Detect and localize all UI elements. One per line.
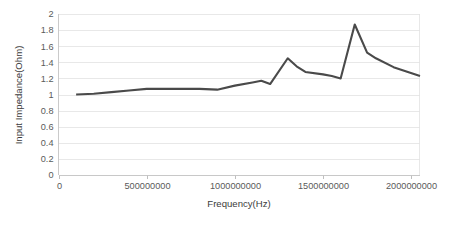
x-axis-tick-label: 1500000000 <box>298 181 349 191</box>
x-axis-tick-label: 500000000 <box>125 181 171 191</box>
x-axis-tick-label: 0 <box>57 181 62 191</box>
y-axis-tick-label: 0.2 <box>41 154 54 164</box>
y-axis-title: Input Impedance(Ohm) <box>13 46 24 145</box>
x-axis-title: Frequency(Hz) <box>207 198 270 209</box>
y-axis-tick-label: 0.6 <box>41 122 54 132</box>
y-axis-tick-label: 1.4 <box>41 58 54 68</box>
x-axis-tick-label: 2000000000 <box>386 181 437 191</box>
y-axis-tick-label: 0 <box>48 170 53 180</box>
chart-background <box>0 0 454 227</box>
chart-container: 00.20.40.60.811.21.41.61.82 050000000010… <box>0 0 454 227</box>
y-axis-tick-label: 1.2 <box>41 74 54 84</box>
y-axis-tick-label: 2 <box>48 9 53 19</box>
y-axis-tick-label: 0.8 <box>41 106 54 116</box>
y-axis-tick-label: 1 <box>48 90 53 100</box>
y-axis-tick-label: 0.4 <box>41 138 54 148</box>
x-axis-tick-label: 1000000000 <box>210 181 261 191</box>
y-axis-tick-label: 1.8 <box>41 25 54 35</box>
line-chart: 00.20.40.60.811.21.41.61.82 050000000010… <box>0 0 454 227</box>
y-axis-tick-label: 1.6 <box>41 42 54 52</box>
